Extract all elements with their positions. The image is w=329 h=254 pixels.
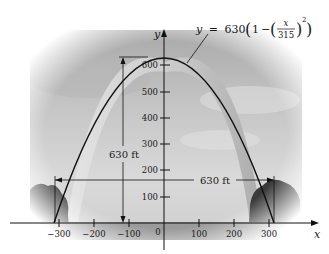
equation-one: 1 bbox=[252, 23, 259, 36]
y-tick-label: 300 bbox=[142, 139, 158, 149]
background-photo bbox=[30, 30, 302, 240]
origin-label: 0 bbox=[155, 227, 160, 237]
y-tick-label: 100 bbox=[142, 192, 158, 202]
x-axis-label: x bbox=[314, 228, 321, 241]
svg-text:y = 630: y = 630 bbox=[195, 23, 245, 36]
y-tick-label: 600 bbox=[142, 60, 158, 70]
equation-minus: − bbox=[261, 23, 270, 36]
x-tick-label: 300 bbox=[261, 229, 277, 239]
x-tick-label: −200 bbox=[82, 229, 105, 239]
big-paren-right: ) bbox=[306, 20, 312, 39]
equation-coefficient: 630 bbox=[224, 23, 245, 36]
width-dimension-label: 630 ft bbox=[200, 175, 230, 186]
y-tick-label: 400 bbox=[142, 113, 158, 123]
x-tick-label: 100 bbox=[191, 229, 207, 239]
x-tick-label: 200 bbox=[226, 229, 242, 239]
y-axis-label: y bbox=[153, 28, 161, 41]
equation-lhs: y bbox=[195, 23, 203, 36]
big-paren-left: ( bbox=[245, 20, 251, 39]
y-tick-label: 500 bbox=[142, 87, 158, 97]
small-paren-left: ( bbox=[270, 20, 276, 39]
equation-denominator: 315 bbox=[278, 30, 294, 40]
equation-equals: = bbox=[209, 23, 218, 36]
x-tick-label: −100 bbox=[117, 229, 140, 239]
parabolic-arch-figure: −300 −200 −100 100 200 300 0 100 200 300… bbox=[0, 0, 329, 254]
x-axis-arrow-icon bbox=[311, 220, 319, 226]
equation-numerator: x bbox=[284, 18, 289, 28]
y-tick-label: 200 bbox=[142, 165, 158, 175]
x-tick-label: −300 bbox=[47, 229, 70, 239]
height-dimension-label: 630 ft bbox=[109, 149, 139, 160]
